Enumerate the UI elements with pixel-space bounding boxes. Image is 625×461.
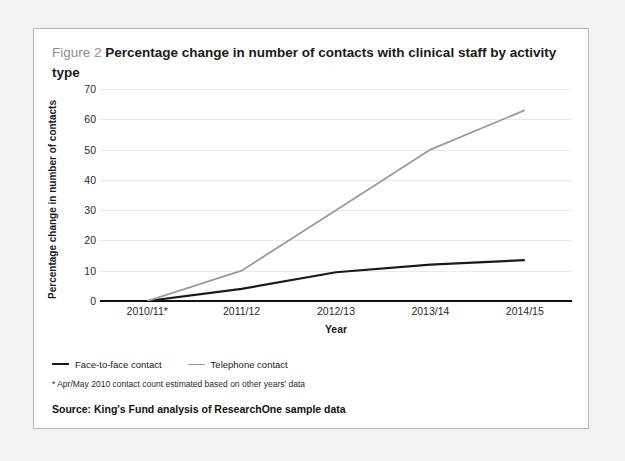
plot-area: Percentage change in number of contacts … <box>52 89 572 351</box>
legend-item-0[interactable]: Face-to-face contact <box>52 359 162 370</box>
y-axis-tick-labels: 010203040506070 <box>70 89 96 301</box>
x-axis-tick-2: 2012/13 <box>317 305 355 317</box>
y-axis-tick-50: 50 <box>70 144 96 156</box>
x-axis-tick-labels: 2010/11*2011/122012/132013/142014/15 <box>100 305 572 321</box>
figure-card: Figure 2 Percentage change in number of … <box>33 28 589 429</box>
chart-legend: Face-to-face contactTelephone contact <box>52 357 314 371</box>
y-axis-tick-10: 10 <box>70 265 96 277</box>
y-axis-tick-20: 20 <box>70 234 96 246</box>
x-axis-tick-1: 2011/12 <box>223 305 260 317</box>
x-axis-title: Year <box>100 323 572 335</box>
legend-label-1: Telephone contact <box>211 359 288 370</box>
figure-footnote: * Apr/May 2010 contact count estimated b… <box>52 379 305 389</box>
figure-number-label: Figure 2 <box>52 45 102 60</box>
figure-title-text: Percentage change in number of contacts … <box>52 45 556 80</box>
x-axis-tick-0: 2010/11* <box>127 305 168 317</box>
y-axis-tick-60: 60 <box>70 113 96 125</box>
x-axis-tick-3: 2013/14 <box>411 305 449 317</box>
y-axis-tick-0: 0 <box>70 295 96 307</box>
y-axis-tick-40: 40 <box>70 174 96 186</box>
legend-swatch-icon-1 <box>188 364 205 365</box>
figure-title: Figure 2 Percentage change in number of … <box>52 43 572 83</box>
legend-item-1[interactable]: Telephone contact <box>188 359 288 370</box>
chart-series-svg <box>100 89 572 301</box>
y-axis-tick-70: 70 <box>70 83 96 95</box>
legend-label-0: Face-to-face contact <box>75 359 162 370</box>
x-axis-tick-4: 2014/15 <box>506 305 544 317</box>
legend-swatch-icon-0 <box>52 363 69 365</box>
series-line-0 <box>147 260 525 301</box>
y-axis-tick-30: 30 <box>70 204 96 216</box>
y-axis-title: Percentage change in number of contacts <box>46 92 60 307</box>
figure-source: Source: King's Fund analysis of Research… <box>52 403 346 415</box>
